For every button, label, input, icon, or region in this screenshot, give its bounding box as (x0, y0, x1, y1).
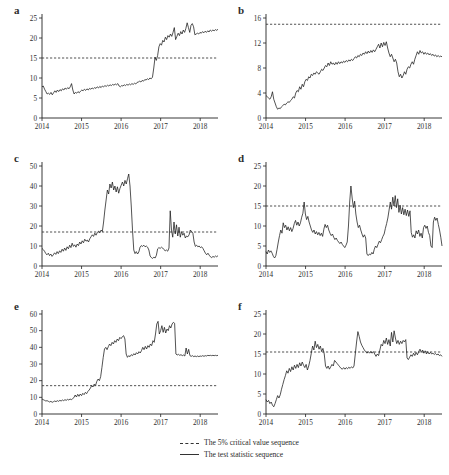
x-tick-label: 2014 (259, 123, 274, 131)
y-tick-label: 20 (254, 183, 262, 191)
y-tick-label: 50 (30, 163, 38, 171)
y-tick-label: 40 (30, 344, 38, 352)
x-tick-label: 2016 (114, 271, 129, 279)
y-tick-label: 25 (254, 311, 262, 319)
y-tick-label: 20 (30, 35, 38, 43)
legend-item-critical: The 5% critical value sequence (180, 437, 440, 449)
x-tick-label: 2016 (338, 419, 353, 427)
y-tick-label: 0 (257, 411, 261, 419)
y-tick-label: 15 (254, 203, 262, 211)
y-tick-label: 30 (30, 203, 38, 211)
x-tick-label: 2015 (298, 419, 313, 427)
plot-b: b048121620142015201620172018 (224, 0, 448, 148)
panel-f: f051015202520142015201620172018 (224, 296, 448, 444)
y-tick-label: 5 (257, 391, 261, 399)
x-tick-label: 2014 (259, 271, 274, 279)
panel-a: a051015202520142015201620172018 (0, 0, 224, 148)
test-statistic-series (266, 331, 442, 407)
x-tick-label: 2014 (35, 271, 50, 279)
x-tick-label: 2017 (153, 419, 168, 427)
y-tick-label: 20 (30, 223, 38, 231)
y-tick-label: 15 (30, 55, 38, 63)
y-tick-label: 5 (257, 243, 261, 251)
y-tick-label: 20 (254, 331, 262, 339)
x-tick-label: 2017 (377, 123, 392, 131)
x-tick-label: 2014 (259, 419, 274, 427)
legend: The 5% critical value sequence The test … (180, 437, 440, 460)
y-tick-label: 16 (254, 15, 262, 23)
test-statistic-series (42, 23, 218, 95)
y-tick-label: 8 (257, 65, 261, 73)
panel-e: e010203040506020142015201620172018 (0, 296, 224, 444)
y-tick-label: 15 (254, 351, 262, 359)
x-tick-label: 2015 (298, 271, 313, 279)
y-tick-label: 10 (30, 75, 38, 83)
dashed-line-icon (180, 439, 199, 447)
x-tick-label: 2015 (74, 123, 89, 131)
plot-c: c0102030405020142015201620172018 (0, 148, 224, 296)
test-statistic-series (42, 174, 218, 258)
x-tick-label: 2018 (417, 123, 432, 131)
panel-label-f: f (238, 300, 242, 312)
plot-a: a051015202520142015201620172018 (0, 0, 224, 148)
y-tick-label: 0 (257, 115, 261, 123)
x-tick-label: 2018 (417, 271, 432, 279)
x-tick-label: 2017 (153, 271, 168, 279)
y-tick-label: 60 (30, 311, 38, 319)
panel-label-e: e (14, 300, 19, 312)
x-tick-label: 2018 (193, 419, 208, 427)
y-tick-label: 0 (257, 263, 261, 271)
plot-d: d051015202520142015201620172018 (224, 148, 448, 296)
y-tick-label: 4 (257, 90, 261, 98)
x-tick-label: 2015 (74, 271, 89, 279)
x-tick-label: 2015 (74, 419, 89, 427)
legend-label-statistic: The test statistic sequence (204, 449, 283, 461)
figure-root: a051015202520142015201620172018 b0481216… (0, 0, 449, 475)
y-tick-label: 5 (33, 95, 37, 103)
test-statistic-series (266, 186, 442, 258)
y-tick-label: 0 (33, 115, 37, 123)
panel-label-b: b (238, 4, 244, 16)
panel-c: c0102030405020142015201620172018 (0, 148, 224, 296)
plot-f: f051015202520142015201620172018 (224, 296, 448, 444)
y-tick-label: 0 (33, 411, 37, 419)
y-tick-label: 25 (30, 15, 38, 23)
y-tick-label: 0 (33, 263, 37, 271)
solid-line-icon (180, 450, 199, 458)
x-tick-label: 2014 (35, 419, 50, 427)
y-tick-label: 12 (254, 40, 262, 48)
y-tick-label: 30 (30, 361, 38, 369)
x-tick-label: 2017 (153, 123, 168, 131)
panel-label-d: d (238, 152, 244, 164)
y-tick-label: 20 (30, 377, 38, 385)
x-tick-label: 2017 (377, 419, 392, 427)
x-tick-label: 2015 (298, 123, 313, 131)
y-tick-label: 10 (254, 371, 262, 379)
panel-d: d051015202520142015201620172018 (224, 148, 448, 296)
x-tick-label: 2018 (417, 419, 432, 427)
y-tick-label: 40 (30, 183, 38, 191)
test-statistic-series (42, 321, 218, 402)
y-tick-label: 25 (254, 163, 262, 171)
y-tick-label: 10 (30, 394, 38, 402)
y-tick-label: 50 (30, 327, 38, 335)
x-tick-label: 2016 (338, 271, 353, 279)
panel-label-a: a (14, 4, 20, 16)
y-tick-label: 10 (30, 243, 38, 251)
x-tick-label: 2016 (114, 419, 129, 427)
test-statistic-series (266, 42, 442, 110)
plot-e: e010203040506020142015201620172018 (0, 296, 224, 444)
x-tick-label: 2016 (338, 123, 353, 131)
y-tick-label: 10 (254, 223, 262, 231)
panel-b: b048121620142015201620172018 (224, 0, 448, 148)
x-tick-label: 2014 (35, 123, 50, 131)
x-tick-label: 2018 (193, 123, 208, 131)
legend-label-critical: The 5% critical value sequence (204, 437, 299, 449)
x-tick-label: 2017 (377, 271, 392, 279)
panel-label-c: c (14, 152, 19, 164)
x-tick-label: 2016 (114, 123, 129, 131)
x-tick-label: 2018 (193, 271, 208, 279)
legend-item-statistic: The test statistic sequence (180, 449, 440, 461)
